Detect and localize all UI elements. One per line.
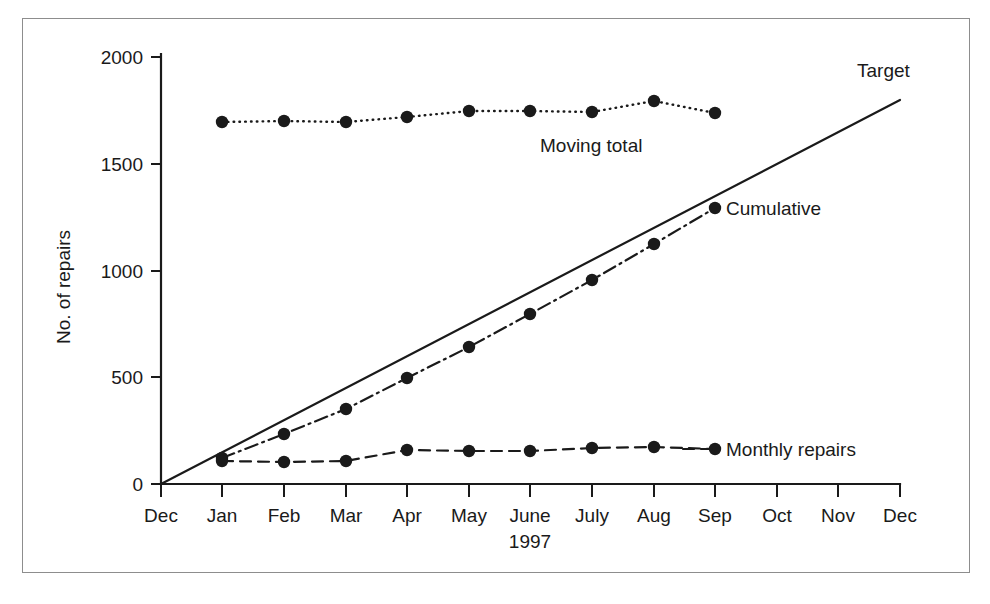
- data-point: [524, 105, 536, 117]
- x-tick-label-july: July: [575, 505, 609, 526]
- data-point: [648, 238, 660, 250]
- x-tick-label-dec2: Dec: [883, 505, 917, 526]
- data-point: [709, 107, 721, 119]
- series-cumulative-label: Cumulative: [726, 198, 821, 219]
- y-tick-label-500: 500: [111, 367, 143, 388]
- data-point: [278, 428, 290, 440]
- series-moving-total: Moving total: [216, 95, 721, 156]
- series-target-line: [161, 100, 900, 484]
- data-point: [463, 105, 475, 117]
- y-axis-title: No. of repairs: [53, 230, 74, 344]
- y-tick-label-1000: 1000: [101, 261, 143, 282]
- data-point: [340, 455, 352, 467]
- series-monthly-repairs-label: Monthly repairs: [726, 439, 856, 460]
- y-axis: 2000 1500 1000 500 0 No. of repairs: [53, 47, 161, 495]
- x-tick-label-mar: Mar: [330, 505, 363, 526]
- data-point: [216, 116, 228, 128]
- data-point: [278, 115, 290, 127]
- y-tick-label-0: 0: [132, 474, 143, 495]
- x-tick-label-aug: Aug: [637, 505, 671, 526]
- series-moving-total-label: Moving total: [540, 135, 642, 156]
- x-tick-label-may: May: [451, 505, 487, 526]
- data-point: [586, 274, 598, 286]
- data-point: [648, 95, 660, 107]
- data-point: [648, 441, 660, 453]
- y-tick-label-2000: 2000: [101, 47, 143, 68]
- x-tick-label-oct: Oct: [762, 505, 792, 526]
- data-point: [709, 202, 721, 214]
- data-point: [524, 445, 536, 457]
- data-point: [340, 116, 352, 128]
- data-point: [340, 403, 352, 415]
- series-cumulative-line: [222, 208, 715, 458]
- data-point: [401, 444, 413, 456]
- x-tick-label-feb: Feb: [268, 505, 301, 526]
- data-point: [216, 455, 228, 467]
- x-axis: Dec Jan Feb Mar Apr May June July Aug Se…: [144, 484, 917, 552]
- x-tick-label-dec1: Dec: [144, 505, 178, 526]
- data-point: [278, 456, 290, 468]
- y-tick-label-1500: 1500: [101, 154, 143, 175]
- series-target: Target: [161, 60, 911, 484]
- x-axis-year-label: 1997: [509, 531, 551, 552]
- x-tick-label-june: June: [509, 505, 550, 526]
- x-tick-label-jan: Jan: [207, 505, 238, 526]
- data-point: [463, 445, 475, 457]
- series-target-label: Target: [857, 60, 911, 81]
- x-tick-label-nov: Nov: [821, 505, 855, 526]
- data-point: [524, 308, 536, 320]
- data-point: [401, 111, 413, 123]
- x-tick-label-sep: Sep: [698, 505, 732, 526]
- series-monthly-repairs: Monthly repairs: [216, 439, 856, 468]
- x-tick-label-apr: Apr: [392, 505, 422, 526]
- data-point: [401, 372, 413, 384]
- data-point: [586, 442, 598, 454]
- repairs-line-chart: 2000 1500 1000 500 0 No. of repairs Dec …: [0, 0, 990, 604]
- data-point: [463, 341, 475, 353]
- data-point: [586, 106, 598, 118]
- series-cumulative: Cumulative: [216, 198, 821, 464]
